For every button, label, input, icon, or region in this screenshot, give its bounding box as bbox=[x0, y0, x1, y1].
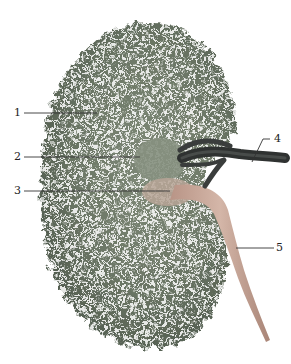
label-3: 3 bbox=[14, 185, 21, 196]
label-1: 1 bbox=[14, 107, 21, 118]
label-4: 4 bbox=[274, 133, 281, 144]
kidney-cast-figure bbox=[0, 0, 291, 364]
label-5: 5 bbox=[276, 242, 283, 253]
label-2: 2 bbox=[14, 151, 21, 162]
